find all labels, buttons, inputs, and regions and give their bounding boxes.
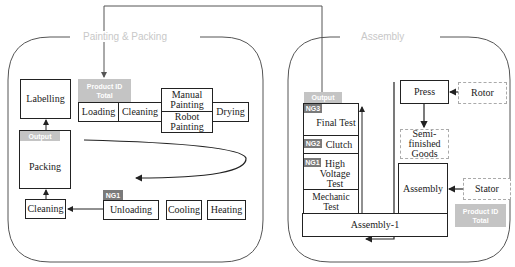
heating-box: Heating xyxy=(207,200,246,220)
press-box: Press xyxy=(400,80,449,104)
assembly-box: Assembly xyxy=(398,163,448,214)
output-tag-left: Output xyxy=(20,131,60,141)
cleaning-bottom-box: Cleaning xyxy=(25,199,66,219)
output-tag-right: Output xyxy=(304,92,342,103)
assembly-1-box: Assembly-1 xyxy=(302,213,448,237)
packing-label: Packing xyxy=(29,162,61,172)
robot-painting-box: Robot Painting xyxy=(161,111,213,133)
cleaning-top-box: Cleaning xyxy=(118,102,162,122)
loading-box: Loading xyxy=(78,102,119,122)
product-id-label: Product ID xyxy=(463,207,498,216)
connector-output-to-product xyxy=(104,6,322,92)
product-total-label: Total xyxy=(472,216,488,225)
rotor-box: Rotor xyxy=(458,82,507,104)
mechanic-test-box: Mechanic Test xyxy=(303,189,359,214)
product-id-tag-right: Product ID Total xyxy=(455,204,506,227)
frame-title-right: Assembly xyxy=(357,31,408,42)
unloading-box: Unloading xyxy=(103,200,159,220)
ng1-tag-left: NG1 xyxy=(103,190,123,200)
frame-title-left: Painting & Packing xyxy=(79,31,171,42)
semi-finished-box: Semi-finished Goods xyxy=(400,129,449,159)
drying-box: Drying xyxy=(212,102,249,122)
ng1-tag-right: NG1 xyxy=(304,158,321,167)
stator-box: Stator xyxy=(463,178,511,200)
product-id-tag-left: Product ID Total xyxy=(78,79,131,102)
ng2-tag: NG2 xyxy=(304,139,322,148)
product-id-label: Product ID xyxy=(87,82,122,91)
ng3-tag: NG3 xyxy=(304,104,322,113)
product-total-label: Total xyxy=(96,91,112,100)
cooling-box: Cooling xyxy=(166,200,202,220)
manual-painting-box: Manual Painting xyxy=(161,88,213,112)
labelling-box: Labelling xyxy=(20,79,71,119)
